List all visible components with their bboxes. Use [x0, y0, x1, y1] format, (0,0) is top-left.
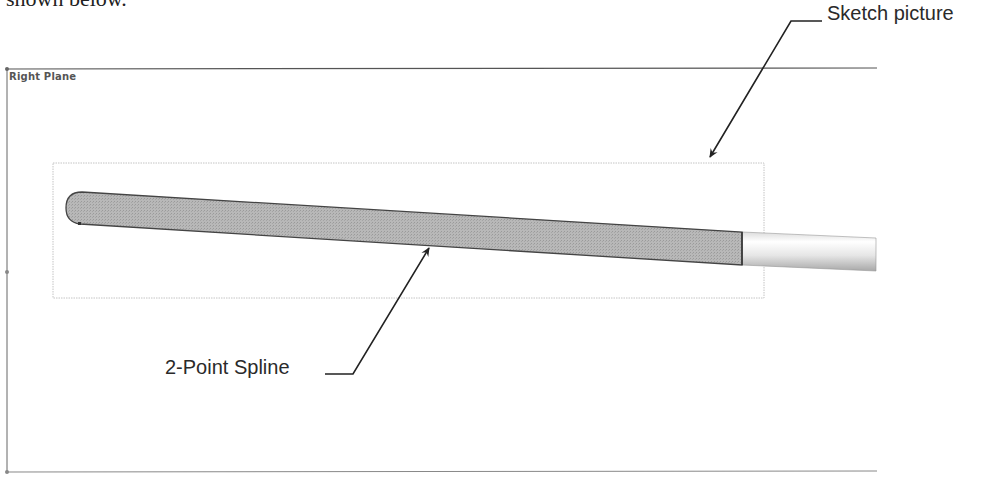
spline-callout: 2-Point Spline — [165, 356, 290, 379]
frame-point-bottom — [5, 470, 9, 474]
sketch-picture-callout: Sketch picture — [827, 2, 954, 25]
spline-profile[interactable] — [66, 192, 742, 265]
spline-leader — [325, 248, 429, 374]
frame-top-line — [7, 68, 877, 69]
spline-endpoint-left[interactable] — [78, 222, 81, 225]
sketch-picture-leader — [710, 21, 822, 157]
frame-bottom-line — [7, 471, 877, 472]
plane-label: Right Plane — [9, 71, 76, 82]
rod-image — [742, 232, 876, 271]
frame-point-mid — [5, 270, 9, 274]
sketch-viewport — [0, 0, 993, 478]
